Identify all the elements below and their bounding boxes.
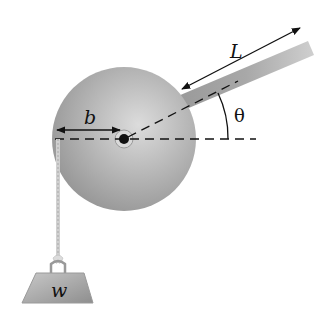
label-length: L	[229, 40, 243, 62]
label-radius: b	[84, 106, 96, 128]
angle-arc	[218, 93, 228, 139]
rod	[178, 41, 314, 110]
label-angle: θ	[234, 105, 245, 126]
label-weight: w	[51, 279, 67, 301]
diagram-canvas: L b θ w	[0, 0, 332, 319]
